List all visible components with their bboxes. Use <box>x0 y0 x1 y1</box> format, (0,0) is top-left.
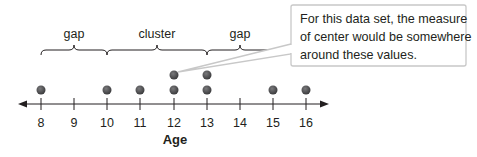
callout-line-2: of center would be somewhere <box>300 28 465 46</box>
brace-gap-left <box>41 45 107 55</box>
data-point-8 <box>37 86 46 95</box>
brace-cluster <box>107 45 207 55</box>
tick-label-16: 16 <box>299 116 313 130</box>
tick-label-12: 12 <box>167 116 181 130</box>
brace-label-gap-left: gap <box>64 27 85 41</box>
data-point-10 <box>103 86 112 95</box>
data-point-13-b <box>203 71 212 80</box>
data-point-11 <box>136 86 145 95</box>
brace-label-gap-right: gap <box>230 27 251 41</box>
axis-left-arrow-icon <box>18 101 27 108</box>
callout-pointer <box>178 44 291 72</box>
tick-label-11: 11 <box>134 116 147 130</box>
tick-label-15: 15 <box>266 116 280 130</box>
tick-label-13: 13 <box>200 116 214 130</box>
data-point-12-a <box>170 86 179 95</box>
tick-label-9: 9 <box>71 116 78 130</box>
axis-right-arrow-icon <box>320 101 329 108</box>
callout-line-1: For this data set, the measure <box>300 10 465 28</box>
data-points <box>37 71 311 95</box>
callout-line-3: around these values. <box>300 46 465 64</box>
data-point-15 <box>269 86 278 95</box>
tick-label-14: 14 <box>233 116 247 130</box>
data-point-13-a <box>203 86 212 95</box>
axis-label: Age <box>163 132 188 147</box>
tick-labels: 8 9 10 11 12 13 14 15 16 <box>38 116 313 130</box>
callout-text: For this data set, the measure of center… <box>300 10 465 64</box>
tick-label-8: 8 <box>38 116 45 130</box>
data-point-12-b <box>170 71 179 80</box>
brace-label-cluster: cluster <box>139 27 176 41</box>
tick-label-10: 10 <box>100 116 114 130</box>
data-point-16 <box>302 86 311 95</box>
